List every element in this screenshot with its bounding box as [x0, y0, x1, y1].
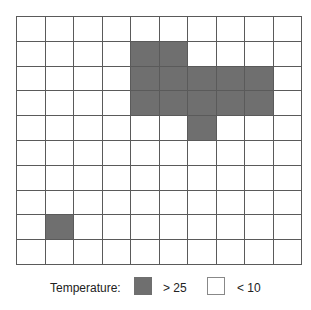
grid-cell-hot — [130, 66, 160, 92]
grid-line-horizontal — [16, 214, 302, 215]
grid-line-horizontal — [16, 90, 302, 91]
grid-cell-hot — [159, 41, 189, 67]
legend: Temperature: > 25 < 10 — [0, 275, 311, 301]
grid-cell-hot — [216, 66, 246, 92]
grid-cell-hot — [159, 66, 189, 92]
grid-line-horizontal — [16, 165, 302, 166]
grid-line-horizontal — [16, 264, 302, 265]
legend-title: Temperature: — [50, 281, 121, 295]
grid-line-horizontal — [16, 66, 302, 67]
grid-cell-hot — [244, 66, 274, 92]
grid-cell-hot — [45, 214, 75, 240]
legend-label-hot: > 25 — [163, 281, 187, 295]
grid-line-horizontal — [16, 41, 302, 42]
grid-line-horizontal — [16, 140, 302, 141]
grid-cell-hot — [187, 115, 217, 141]
legend-label-cold: < 10 — [237, 281, 261, 295]
grid-cell-hot — [130, 90, 160, 116]
grid-line-horizontal — [16, 16, 302, 17]
temperature-grid — [16, 16, 301, 264]
grid-cell-hot — [187, 66, 217, 92]
grid-line-horizontal — [16, 115, 302, 116]
grid-cell-hot — [130, 41, 160, 67]
grid-cell-hot — [216, 90, 246, 116]
grid-line-horizontal — [16, 239, 302, 240]
grid-cell-hot — [159, 90, 189, 116]
grid-cell-hot — [187, 90, 217, 116]
legend-swatch-cold — [207, 277, 225, 295]
grid-line-horizontal — [16, 190, 302, 191]
legend-swatch-hot — [134, 277, 152, 295]
grid-cell-hot — [244, 90, 274, 116]
